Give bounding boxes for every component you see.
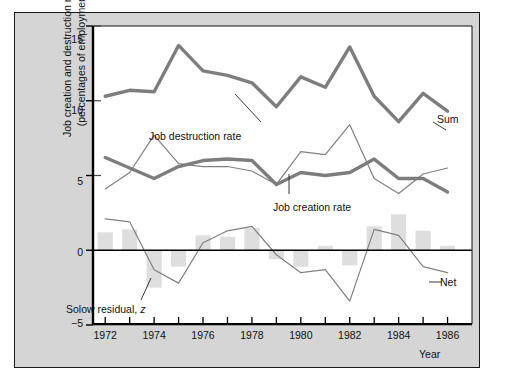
annotation-sum: Sum xyxy=(437,113,459,125)
x-tick-label-1978: 1978 xyxy=(236,329,268,341)
y-tick-label-15: 15 xyxy=(59,33,83,45)
x-tick-label-1972: 1972 xyxy=(89,329,121,341)
x-tick-label-1980: 1980 xyxy=(285,329,317,341)
x-tick-label-1986: 1986 xyxy=(432,329,464,341)
figure-root: Job creation and destruction rates (perc… xyxy=(0,0,508,385)
y-tick-label-minus5: −5 xyxy=(55,317,83,329)
annotation-solow-residual: Solow residual, z xyxy=(66,303,145,315)
x-axis-title: Year xyxy=(419,348,440,360)
annotation-solow-residual-symbol: z xyxy=(140,303,145,315)
x-tick-label-1982: 1982 xyxy=(334,329,366,341)
y-tick-label-0: 0 xyxy=(59,246,83,258)
annotation-solow-residual-text: Solow residual, xyxy=(66,303,140,315)
chart-labels-layer: 15 10 5 0 −5 197219741976197819801982198… xyxy=(15,13,481,369)
annotation-job-creation-rate: Job creation rate xyxy=(273,201,351,213)
x-tick-label-1974: 1974 xyxy=(138,329,170,341)
figure-panel: Job creation and destruction rates (perc… xyxy=(14,12,480,368)
annotation-job-destruction-rate: Job destruction rate xyxy=(149,130,241,142)
annotation-net: Net xyxy=(440,276,456,288)
y-tick-label-10: 10 xyxy=(59,104,83,116)
x-tick-label-1976: 1976 xyxy=(187,329,219,341)
y-tick-label-5: 5 xyxy=(59,175,83,187)
x-tick-label-1984: 1984 xyxy=(383,329,415,341)
